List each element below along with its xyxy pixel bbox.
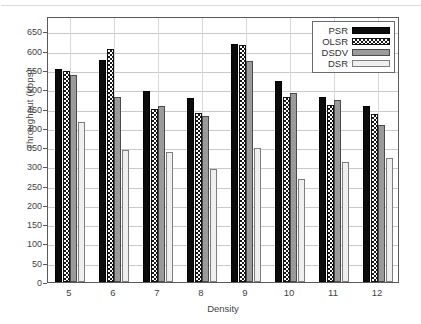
y-tick-label: 100	[6, 239, 42, 249]
bar-olsr-density-11	[327, 105, 334, 282]
x-tick-label: 9	[225, 287, 265, 298]
bar-psr-density-9	[231, 44, 238, 282]
x-tick-label: 7	[137, 287, 177, 298]
y-tick-label: 150	[6, 220, 42, 230]
bar-psr-density-8	[187, 98, 194, 282]
bar-dsdv-density-12	[378, 125, 385, 282]
bar-psr-density-6	[99, 60, 106, 282]
bar-olsr-density-8	[195, 113, 202, 282]
bar-dsr-density-12	[386, 158, 393, 282]
bar-psr-density-7	[143, 91, 150, 282]
legend-label-dsdv: DSDV	[318, 47, 348, 58]
bar-psr-density-10	[275, 81, 282, 282]
legend-item-dsdv: DSDV	[318, 47, 390, 58]
y-tick-label: 400	[6, 124, 42, 134]
bar-dsr-density-11	[342, 162, 349, 282]
bar-dsdv-density-11	[334, 100, 341, 282]
legend-item-olsr: OLSR	[318, 36, 390, 47]
bar-dsdv-density-10	[290, 93, 297, 282]
y-tick-label: 650	[6, 27, 42, 37]
bar-dsdv-density-9	[246, 61, 253, 282]
y-tick-label: 450	[6, 105, 42, 115]
bar-dsr-density-7	[166, 152, 173, 282]
legend-swatch-dsdv-icon	[352, 49, 390, 56]
bar-olsr-density-12	[371, 114, 378, 282]
legend-item-psr: PSR	[318, 25, 390, 36]
bar-psr-density-12	[363, 106, 370, 282]
legend-item-dsr: DSR	[318, 58, 390, 69]
bar-dsr-density-6	[122, 150, 129, 282]
legend-label-psr: PSR	[318, 25, 348, 36]
bar-dsdv-density-8	[202, 116, 209, 282]
legend-label-dsr: DSR	[318, 58, 348, 69]
bar-olsr-density-5	[63, 71, 70, 282]
chart-figure: Throughput (kbps) Density 05010015020025…	[0, 0, 421, 324]
bar-psr-density-11	[319, 97, 326, 282]
y-tick-label: 500	[6, 85, 42, 95]
y-tick-label: 350	[6, 143, 42, 153]
bar-dsdv-density-6	[114, 97, 121, 282]
bar-psr-density-5	[55, 69, 62, 282]
x-tick-label: 6	[93, 287, 133, 298]
bar-olsr-density-6	[107, 49, 114, 282]
legend-swatch-dsr-icon	[352, 60, 390, 67]
x-tick-label: 12	[357, 287, 397, 298]
bar-olsr-density-9	[239, 45, 246, 282]
y-tick-label: 200	[6, 201, 42, 211]
x-axis-label: Density	[47, 303, 399, 314]
legend-swatch-olsr-icon	[352, 38, 390, 45]
plot-area: PSR OLSR DSDV DSR	[47, 17, 399, 283]
y-tick-label: 50	[6, 259, 42, 269]
x-tick-label: 8	[181, 287, 221, 298]
x-tick-label: 5	[49, 287, 89, 298]
bar-dsr-density-10	[298, 179, 305, 282]
y-tick-label: 550	[6, 66, 42, 76]
bar-olsr-density-7	[151, 109, 158, 282]
chart-legend: PSR OLSR DSDV DSR	[312, 21, 395, 73]
legend-label-olsr: OLSR	[318, 36, 348, 47]
y-tick-mark	[43, 283, 47, 284]
bar-dsdv-density-7	[158, 106, 165, 282]
figure-top-border	[0, 0, 421, 6]
y-tick-label: 600	[6, 47, 42, 57]
y-tick-label: 250	[6, 182, 42, 192]
x-tick-label: 10	[269, 287, 309, 298]
bar-olsr-density-10	[283, 97, 290, 282]
bar-dsr-density-5	[78, 122, 85, 282]
y-tick-label: 0	[6, 278, 42, 288]
figure-left-border	[0, 0, 1, 324]
bar-dsdv-density-5	[70, 75, 77, 282]
bar-dsr-density-9	[254, 148, 261, 282]
y-tick-label: 300	[6, 162, 42, 172]
legend-swatch-psr-icon	[352, 27, 390, 34]
x-tick-label: 11	[313, 287, 353, 298]
bar-dsr-density-8	[210, 169, 217, 282]
